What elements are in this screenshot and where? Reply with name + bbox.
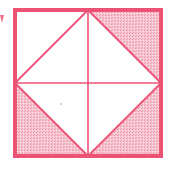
small-dot (60, 103, 61, 104)
diagram-canvas (0, 0, 180, 196)
square-diamond-figure (0, 0, 180, 196)
stray-mark (0, 15, 4, 23)
diamond-top-left-edge (15, 10, 88, 83)
